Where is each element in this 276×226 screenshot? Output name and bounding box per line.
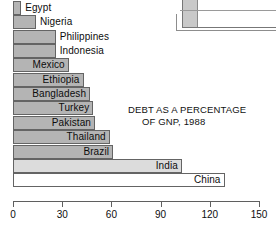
bar-row: Egypt (13, 1, 21, 15)
bar-row: Ethiopia (13, 73, 84, 87)
bar-egypt (13, 1, 21, 15)
bar-label-nigeria: Nigeria (40, 15, 72, 29)
bar-label-pakistan: Pakistan (52, 116, 91, 130)
bar-row: Pakistan (13, 116, 95, 130)
bar-row: China (13, 173, 225, 187)
x-tick-label: 120 (201, 209, 218, 220)
x-axis-line (13, 201, 259, 202)
bar-philippines (13, 30, 56, 44)
bar-label-egypt: Egypt (25, 1, 51, 15)
x-tick (161, 201, 162, 207)
bar-label-ethiopia: Ethiopia (43, 73, 80, 87)
x-tick (13, 201, 14, 207)
bar-row: Indonesia (13, 44, 56, 58)
bar-row: Mexico (13, 58, 69, 72)
x-tick-label: 30 (57, 209, 68, 220)
bar-label-brazil: Brazil (83, 145, 109, 159)
bar-indonesia (13, 44, 56, 58)
bar-label-india: India (156, 159, 178, 173)
bar-label-thailand: Thailand (67, 130, 106, 144)
bar-label-turkey: Turkey (59, 101, 90, 115)
chart-root: 50° 10-15 0-10 Not avai DEBT AS A PERCEN… (0, 0, 276, 226)
bar-label-indonesia: Indonesia (60, 44, 104, 58)
x-tick (62, 201, 63, 207)
bar-row: Thailand (13, 130, 110, 144)
bar-label-bangladesh: Bangladesh (32, 87, 86, 101)
bar-nigeria (13, 15, 36, 29)
bar-label-philippines: Philippines (60, 30, 109, 44)
x-tick (111, 201, 112, 207)
x-tick (210, 201, 211, 207)
plot-area: EgyptNigeriaPhilippinesIndonesiaMexicoEt… (0, 0, 276, 226)
bar-row: Nigeria (13, 15, 36, 29)
bar-label-mexico: Mexico (32, 58, 64, 72)
bar-label-china: China (194, 173, 221, 187)
x-tick (259, 201, 260, 207)
x-tick-label: 60 (106, 209, 117, 220)
bar-row: Brazil (13, 145, 113, 159)
bar-row: Turkey (13, 101, 93, 115)
bar-row: Bangladesh (13, 87, 90, 101)
bar-china (13, 173, 225, 187)
x-tick-label: 150 (251, 209, 268, 220)
bar-row: Philippines (13, 30, 56, 44)
bar-row: India (13, 159, 182, 173)
x-tick-label: 90 (155, 209, 166, 220)
x-tick-label: 0 (10, 209, 16, 220)
